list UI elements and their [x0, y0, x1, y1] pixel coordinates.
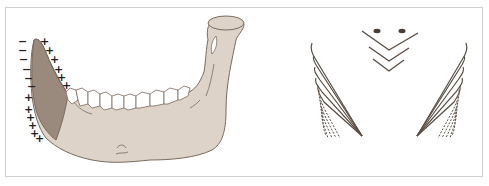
- mandible-illustration: − − − − − − + + + + + + + + + + + +: [18, 16, 244, 162]
- dot-left: [374, 29, 381, 33]
- chevron-2: [369, 47, 409, 61]
- tooth: [124, 94, 136, 110]
- tooth: [150, 90, 164, 106]
- schematic-illustration: [311, 29, 467, 138]
- tooth: [88, 90, 100, 108]
- tooth: [112, 94, 124, 110]
- chevrons: [362, 31, 418, 71]
- right-fan-solid: [417, 43, 467, 136]
- figure-canvas: − − − − − − + + + + + + + + + + + +: [0, 0, 489, 186]
- tooth: [100, 92, 112, 110]
- plus-sign: +: [62, 79, 71, 92]
- plus-sign: +: [35, 132, 44, 145]
- tooth: [136, 92, 150, 108]
- condyle-head: [208, 16, 244, 30]
- dot-right: [399, 29, 406, 33]
- left-fan-solid: [311, 43, 362, 136]
- fan-line: [417, 43, 467, 136]
- fan-line: [311, 43, 362, 136]
